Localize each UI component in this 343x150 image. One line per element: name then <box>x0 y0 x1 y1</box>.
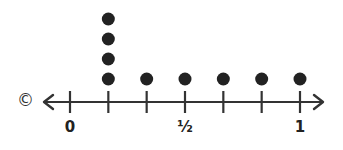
copyright-icon: © <box>17 92 34 109</box>
data-dots <box>102 13 307 86</box>
tick-label-half: ½ <box>177 118 193 136</box>
data-dot <box>102 13 115 26</box>
data-dot <box>294 73 307 86</box>
data-dot <box>140 73 153 86</box>
tick-label-one: 1 <box>295 118 305 136</box>
tick-label-zero: 0 <box>65 118 75 136</box>
data-dot <box>217 73 230 86</box>
data-dot <box>179 73 192 86</box>
data-dot <box>255 73 268 86</box>
data-dot <box>102 33 115 46</box>
number-line <box>44 95 323 109</box>
data-dot <box>102 73 115 86</box>
dot-plot <box>0 0 343 150</box>
data-dot <box>102 53 115 66</box>
